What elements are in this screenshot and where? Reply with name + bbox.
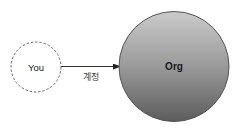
node-org: Org	[119, 12, 229, 122]
node-you: You	[11, 42, 61, 92]
you-label: You	[28, 62, 44, 73]
diagram-canvas: You 계정 Org	[0, 0, 239, 128]
edge-you-org: 계정	[61, 67, 120, 83]
edge-label: 계정	[83, 71, 99, 82]
org-label: Org	[165, 61, 183, 72]
